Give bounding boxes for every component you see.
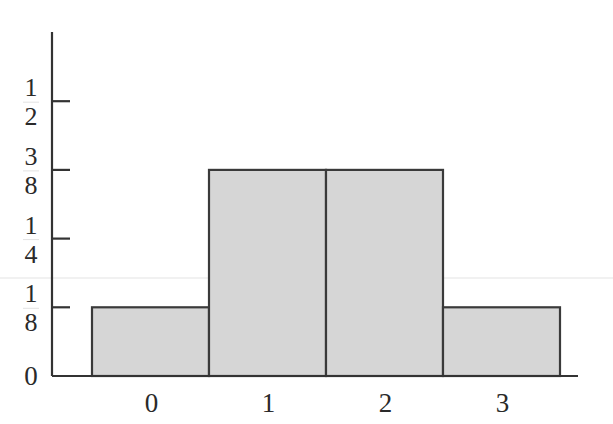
x-tick-label-2: 2 — [379, 388, 393, 418]
bar-0 — [92, 307, 209, 376]
x-ticks-group: 0123 — [145, 388, 510, 418]
y-tick-label-zero: 0 — [24, 361, 38, 391]
y-tick-numerator: 1 — [25, 211, 38, 240]
y-tick-denominator: 4 — [25, 240, 38, 269]
y-tick-denominator: 8 — [25, 308, 38, 337]
x-tick-label-3: 3 — [496, 388, 510, 418]
y-tick-numerator: 1 — [25, 73, 38, 102]
y-ticks-group: 018143812 — [23, 73, 70, 391]
bar-1 — [209, 170, 326, 376]
x-tick-label-0: 0 — [145, 388, 159, 418]
y-tick-numerator: 3 — [25, 142, 38, 171]
histogram-chart: 018143812 0123 — [0, 0, 613, 424]
bars-group — [92, 170, 560, 376]
y-tick-numerator: 1 — [25, 279, 38, 308]
x-tick-label-1: 1 — [262, 388, 276, 418]
bar-2 — [326, 170, 443, 376]
y-tick-denominator: 2 — [25, 102, 38, 131]
y-tick-denominator: 8 — [25, 171, 38, 200]
bar-3 — [443, 307, 560, 376]
